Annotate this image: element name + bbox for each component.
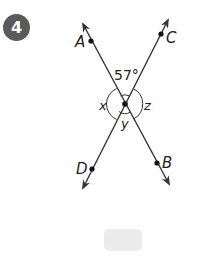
point-c [158, 31, 163, 36]
point-b [154, 160, 159, 165]
point-d [89, 166, 94, 171]
center-point [122, 101, 128, 107]
label-d: D [76, 160, 88, 178]
intersecting-lines-diagram: A C B D 57° x z y [0, 0, 215, 257]
label-angle-y: y [120, 116, 129, 131]
answer-box[interactable] [104, 229, 142, 251]
label-b: B [162, 154, 172, 172]
label-angle-57: 57° [114, 67, 139, 83]
angle-arc-57 [121, 95, 130, 96]
point-a [88, 38, 93, 43]
label-c: C [166, 29, 177, 47]
angle-arc-x [106, 89, 116, 120]
label-angle-z: z [143, 98, 152, 113]
angle-arc-z [133, 89, 143, 120]
label-a: A [74, 33, 85, 51]
label-angle-x: x [98, 98, 107, 113]
